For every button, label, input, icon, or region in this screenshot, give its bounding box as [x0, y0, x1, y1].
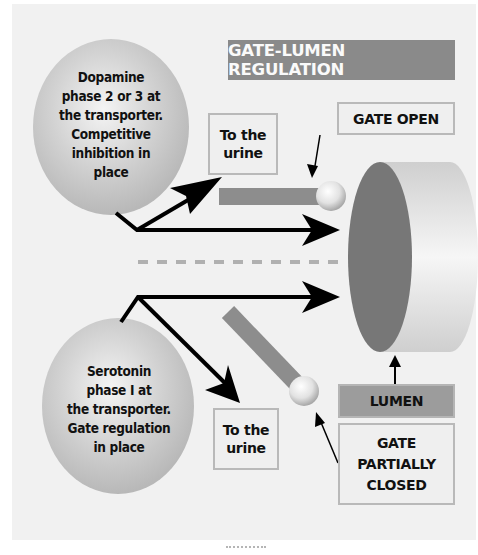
text-line: CLOSED [366, 475, 426, 496]
urine-box-bottom: To the urine [213, 408, 279, 470]
gate-ball-top [316, 181, 346, 211]
text-line: PARTIALLY [357, 454, 436, 475]
text-line: Competitive [38, 125, 184, 144]
gate-ball-bottom [289, 376, 319, 406]
text-line: GATE [377, 433, 416, 454]
text-line: urine [223, 144, 263, 162]
gate-open-pointer [307, 164, 318, 178]
dopamine-bubble-text: Dopamine phase 2 or 3 at the transporter… [38, 68, 184, 182]
lumen-pointer [389, 355, 401, 367]
lumen-label: LUMEN [338, 384, 455, 418]
text-line: Gate regulation [46, 419, 192, 438]
text-line: To the [220, 126, 267, 144]
diagram-title: GATE-LUMEN REGULATION [228, 40, 455, 80]
gate-bar-bottom [228, 312, 297, 384]
text-line: urine [226, 439, 266, 457]
text-line: the transporter. [46, 400, 192, 419]
serotonin-bubble-text: Serotonin phase I at the transporter. Ga… [46, 362, 192, 457]
gate-open-label: GATE OPEN [337, 102, 455, 135]
gate-closed-pointer [315, 412, 325, 427]
text-line: phase I at [46, 381, 192, 400]
footer-dots [226, 546, 266, 550]
text-line: Serotonin [46, 362, 192, 381]
arrowhead-top-urine [170, 177, 222, 214]
text-line: Dopamine [38, 68, 184, 87]
urine-box-top: To the urine [208, 113, 278, 175]
gate-bar-top [219, 188, 319, 205]
text-line: place [38, 163, 184, 182]
text-line: phase 2 or 3 at [38, 87, 184, 106]
text-line: in place [46, 438, 192, 457]
text-line: the transporter. [38, 106, 184, 125]
text-line: To the [223, 421, 270, 439]
gate-partially-closed-label: GATE PARTIALLY CLOSED [338, 423, 455, 505]
lumen-disc [348, 162, 478, 352]
text-line: inhibition in [38, 144, 184, 163]
